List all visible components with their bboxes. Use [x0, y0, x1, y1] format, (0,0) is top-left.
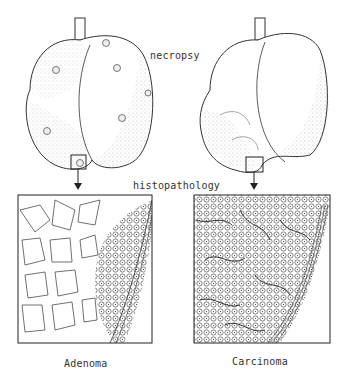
- arrow-down-icon: [250, 183, 258, 190]
- label-carcinoma: Carcinoma: [232, 356, 288, 367]
- histology-carcinoma: [194, 195, 330, 343]
- lung-adenoma: [26, 18, 153, 190]
- lung-carcinoma: [200, 18, 329, 190]
- label-histopathology: histopathology: [133, 180, 220, 191]
- histology-adenoma: [18, 195, 152, 343]
- arrow-down-icon: [74, 183, 82, 190]
- label-necropsy: necropsy: [150, 50, 200, 61]
- label-adenoma: Adenoma: [64, 358, 108, 369]
